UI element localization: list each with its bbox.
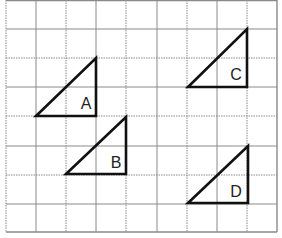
triangle-label: A [81, 95, 92, 112]
triangle-label: B [111, 154, 122, 171]
grid-canvas: ABCD [0, 0, 282, 238]
triangle-label: C [230, 66, 242, 83]
triangle-label: D [230, 183, 242, 200]
grid-diagram: ABCD [0, 0, 282, 238]
